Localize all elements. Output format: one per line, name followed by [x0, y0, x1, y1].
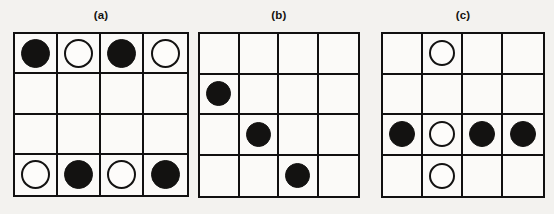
- cell-r3c2: [240, 115, 280, 156]
- disc-filled: [151, 160, 180, 189]
- panel-a-label: (a): [13, 8, 189, 22]
- disc-filled: [389, 121, 415, 147]
- cell-r4c2: [423, 156, 463, 197]
- cell-r4c2: [240, 156, 280, 197]
- cell-r2c4: [503, 75, 543, 116]
- disc-filled: [21, 39, 50, 68]
- disc-filled: [206, 81, 231, 106]
- cell-r1c1: [383, 34, 423, 75]
- cell-r2c3: [279, 75, 319, 116]
- cell-r1c2: [423, 34, 463, 75]
- panel-c-grid: [381, 32, 545, 198]
- cell-r4c3: [101, 155, 144, 195]
- cell-r1c3: [463, 34, 503, 75]
- cell-r4c4: [319, 156, 359, 197]
- cell-r2c3: [101, 74, 144, 114]
- cell-r1c2: [58, 34, 101, 74]
- cell-r3c1: [15, 115, 58, 155]
- disc-open: [107, 160, 136, 189]
- cell-r4c1: [200, 156, 240, 197]
- panel-c-label: (c): [381, 8, 545, 22]
- cell-r3c4: [144, 115, 187, 155]
- cell-r1c4: [319, 34, 359, 75]
- disc-filled: [64, 160, 93, 189]
- disc-filled: [469, 121, 495, 147]
- cell-r4c2: [58, 155, 101, 195]
- cell-r1c3: [279, 34, 319, 75]
- cell-r4c1: [15, 155, 58, 195]
- cell-r2c2: [423, 75, 463, 116]
- disc-open: [151, 39, 180, 68]
- cell-r2c2: [58, 74, 101, 114]
- cell-r4c3: [279, 156, 319, 197]
- cell-r3c4: [319, 115, 359, 156]
- cell-r4c4: [503, 156, 543, 197]
- cell-r1c1: [200, 34, 240, 75]
- disc-filled: [107, 39, 136, 68]
- cell-r3c2: [58, 115, 101, 155]
- disc-open: [429, 40, 455, 66]
- disc-open: [429, 121, 455, 147]
- cell-r2c2: [240, 75, 280, 116]
- disc-filled: [285, 163, 310, 188]
- disc-open: [429, 163, 455, 189]
- cell-r1c4: [144, 34, 187, 74]
- cell-r2c1: [200, 75, 240, 116]
- cell-r4c3: [463, 156, 503, 197]
- cell-r4c1: [383, 156, 423, 197]
- cell-r2c4: [319, 75, 359, 116]
- cell-r3c3: [463, 115, 503, 156]
- cell-r2c4: [144, 74, 187, 114]
- cell-r3c1: [200, 115, 240, 156]
- cell-r3c1: [383, 115, 423, 156]
- panel-b-grid: [198, 32, 360, 198]
- panel-a-grid: [13, 32, 189, 197]
- cell-r3c3: [101, 115, 144, 155]
- disc-open: [64, 39, 93, 68]
- cell-r1c3: [101, 34, 144, 74]
- disc-filled: [510, 121, 536, 147]
- cell-r3c3: [279, 115, 319, 156]
- disc-open: [21, 160, 50, 189]
- panel-b-label: (b): [198, 8, 360, 22]
- cell-r1c2: [240, 34, 280, 75]
- figure-three-grid-panels: (a) (b): [0, 0, 554, 214]
- cell-r1c4: [503, 34, 543, 75]
- disc-filled: [246, 122, 271, 147]
- cell-r3c4: [503, 115, 543, 156]
- cell-r4c4: [144, 155, 187, 195]
- cell-r3c2: [423, 115, 463, 156]
- cell-r2c3: [463, 75, 503, 116]
- cell-r2c1: [383, 75, 423, 116]
- cell-r1c1: [15, 34, 58, 74]
- cell-r2c1: [15, 74, 58, 114]
